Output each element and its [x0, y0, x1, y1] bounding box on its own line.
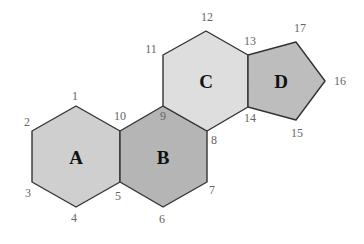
atom-number-14: 14 [244, 111, 256, 125]
ring-label-a: A [69, 147, 83, 168]
atom-number-11: 11 [145, 42, 157, 56]
atom-number-7: 7 [209, 183, 215, 197]
rings-group [32, 31, 325, 207]
atom-number-8: 8 [211, 133, 217, 147]
atom-number-2: 2 [24, 115, 30, 129]
ring-label-d: D [274, 71, 288, 92]
ring-diagram: ABCD 1234567891011121314151617 [0, 0, 364, 244]
atom-number-10: 10 [114, 109, 126, 123]
atom-number-4: 4 [71, 211, 77, 225]
atom-number-15: 15 [291, 126, 303, 140]
ring-label-b: B [157, 147, 170, 168]
atom-number-16: 16 [334, 74, 346, 88]
atom-number-9: 9 [160, 109, 166, 123]
atom-number-1: 1 [72, 89, 78, 103]
atom-number-12: 12 [201, 10, 213, 24]
ring-label-c: C [199, 71, 213, 92]
atom-number-3: 3 [25, 186, 31, 200]
atom-number-6: 6 [159, 212, 165, 226]
atom-number-13: 13 [244, 34, 256, 48]
atom-number-5: 5 [115, 189, 121, 203]
atom-number-17: 17 [294, 21, 306, 35]
